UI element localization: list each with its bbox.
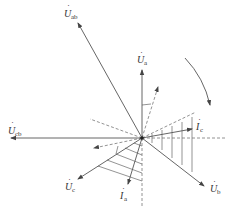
origin-point — [140, 136, 144, 140]
hatch-right — [152, 117, 192, 172]
svg-text:a: a — [124, 195, 128, 203]
label-U-b: · U b — [210, 176, 221, 196]
label-U-c: · U c — [65, 174, 75, 194]
svg-text:c: c — [200, 126, 203, 134]
svg-text:ab: ab — [71, 13, 78, 21]
label-I-a: · I a — [119, 183, 128, 203]
phasor-U-b — [142, 138, 204, 186]
phasor-I-a — [128, 138, 142, 184]
angle-arc-left — [116, 146, 118, 154]
phasor-U-ab — [78, 23, 142, 138]
phasor-lines — [11, 23, 204, 186]
svg-text:cb: cb — [15, 130, 22, 138]
label-U-cb: · U cb — [8, 117, 22, 138]
label-I-c: · I c — [195, 114, 203, 134]
svg-text:a: a — [144, 59, 148, 67]
svg-text:b: b — [217, 188, 221, 196]
angle-arc-upper — [142, 104, 151, 105]
phasor-U-c — [78, 138, 142, 179]
phasor-diagram: · U ab · U a · U cb · U c · U b · I a · … — [0, 0, 228, 208]
label-U-ab: · U ab — [64, 0, 78, 21]
dashed-reference-lines — [90, 87, 225, 207]
phasor-I-c — [142, 129, 192, 138]
svg-text:c: c — [72, 186, 75, 194]
rotation-arrow-icon — [185, 58, 210, 105]
label-U-a: · U a — [137, 47, 148, 67]
